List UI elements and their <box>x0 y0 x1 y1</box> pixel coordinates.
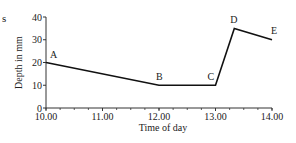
point-label-b: B <box>156 71 163 82</box>
point-label-d: D <box>230 14 237 25</box>
y-tick-label: 10 <box>32 80 42 91</box>
x-axis-label: Time of day <box>139 122 188 133</box>
point-label-a: A <box>50 49 58 60</box>
point-label-c: C <box>208 71 215 82</box>
cropped-text-fragment: s <box>2 12 6 24</box>
x-tick-label: 13.00 <box>204 111 227 122</box>
x-tick-label: 14.00 <box>261 111 284 122</box>
series-line: ABCDE <box>46 14 277 85</box>
x-tick-label: 10.00 <box>35 111 58 122</box>
y-tick-label: 20 <box>32 57 42 68</box>
y-tick-label: 40 <box>32 12 42 23</box>
depth-chart: s 01020304010.0011.0012.0013.0014.00 ABC… <box>0 0 296 143</box>
y-axis-label: Depth in mm <box>13 36 24 89</box>
x-tick-label: 12.00 <box>148 111 171 122</box>
x-tick-label: 11.00 <box>91 111 113 122</box>
point-label-e: E <box>271 25 277 36</box>
y-tick-label: 30 <box>32 34 42 45</box>
